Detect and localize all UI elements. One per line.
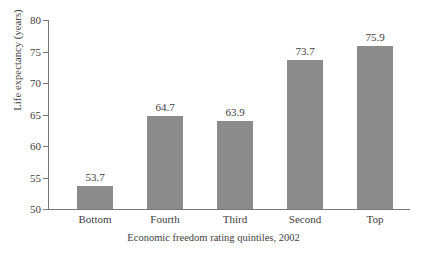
x-category-label: Second <box>289 213 321 225</box>
y-tick-mark <box>43 146 48 147</box>
y-tick-mark <box>43 20 48 21</box>
bar: 63.9 <box>217 121 253 209</box>
y-tick-mark <box>43 115 48 116</box>
x-category-label: Top <box>367 213 384 225</box>
bar: 73.7 <box>287 60 323 209</box>
x-axis-line <box>44 209 410 210</box>
y-tick-label: 65 <box>30 109 41 121</box>
bar: 53.7 <box>77 186 113 209</box>
x-category-label: Fourth <box>150 213 179 225</box>
bar-value-label: 63.9 <box>225 106 244 118</box>
y-tick-mark <box>43 52 48 53</box>
chart-figure: Life expectancy (years) 50556065707580 5… <box>0 0 427 258</box>
bar: 64.7 <box>147 116 183 209</box>
bar-value-label: 73.7 <box>295 45 314 57</box>
y-tick-label: 70 <box>30 77 41 89</box>
bar-value-label: 75.9 <box>365 31 384 43</box>
bar-value-label: 64.7 <box>155 101 174 113</box>
y-tick-mark <box>43 178 48 179</box>
y-tick-label: 75 <box>30 46 41 58</box>
y-tick-label: 55 <box>30 172 41 184</box>
x-category-label: Bottom <box>78 213 111 225</box>
y-tick-label: 50 <box>30 203 41 215</box>
x-category-label: Third <box>223 213 247 225</box>
x-axis-title: Economic freedom rating quintiles, 2002 <box>0 232 427 243</box>
y-axis-line <box>48 20 49 209</box>
y-tick-label: 60 <box>30 140 41 152</box>
y-tick-mark <box>43 83 48 84</box>
y-tick-mark <box>43 209 48 210</box>
y-tick-label: 80 <box>30 14 41 26</box>
y-axis-title: Life expectancy (years) <box>10 0 26 130</box>
bar: 75.9 <box>357 46 393 209</box>
bar-value-label: 53.7 <box>85 171 104 183</box>
plot-area: 50556065707580 53.764.763.973.775.9 Bott… <box>48 20 410 209</box>
